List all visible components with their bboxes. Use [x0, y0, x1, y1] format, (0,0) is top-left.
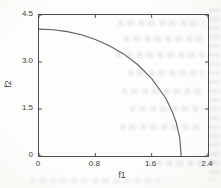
y-tick-label: 1.5: [22, 104, 33, 112]
scanned-figure-page: 00.81.62.401.53.04.5 f1 f2: [0, 0, 221, 188]
y-tick-label: 3.0: [22, 57, 33, 65]
chart-canvas: [39, 15, 208, 156]
y-tick-label: 4.5: [22, 10, 33, 18]
series-pareto-front: [39, 29, 181, 156]
x-axis-label: f1: [118, 171, 125, 180]
scan-bleed-artifact: [30, 178, 160, 184]
y-axis-label: f2: [4, 80, 13, 87]
x-tick-label: 2.4: [201, 160, 212, 168]
y-tick-label: 0: [29, 151, 33, 159]
scan-bleed-artifact: [209, 8, 220, 180]
x-tick-label: 1.6: [145, 160, 156, 168]
plot-area: [38, 14, 209, 157]
x-tick-label: 0: [36, 160, 40, 168]
x-tick-label: 0.8: [89, 160, 100, 168]
